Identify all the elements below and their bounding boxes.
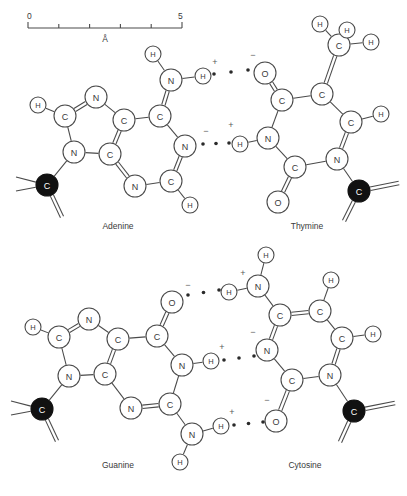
atom-label-n: N xyxy=(179,361,186,371)
atom-label-c: C xyxy=(62,112,69,122)
atom-a-c6: C xyxy=(149,105,171,127)
atom-a-h-n6b: H xyxy=(195,68,211,84)
atom-g-n3: N xyxy=(120,397,142,419)
bond-single xyxy=(98,326,108,333)
atom-label-h: H xyxy=(226,288,231,297)
atom-c-n3: N xyxy=(256,339,278,361)
atom-c-c1p: C xyxy=(343,400,365,422)
bond-single xyxy=(158,61,165,71)
atom-label-n: N xyxy=(334,155,341,165)
molecular-diagram-canvas: 05ÅHCNCCNCCNHHNCHN+−AdenineOCCCHHHCHNCCO… xyxy=(0,0,407,496)
sugar-bond-double-b xyxy=(365,401,395,407)
atom-label-h: H xyxy=(317,20,322,29)
charge-symbol: − xyxy=(250,327,255,337)
atom-c-n1: N xyxy=(319,364,341,386)
atom-label-c: C xyxy=(107,150,114,160)
atom-label-c: C xyxy=(115,335,122,345)
sugar-bond-double-a xyxy=(366,405,396,411)
atom-label-n: N xyxy=(168,76,175,86)
bond-double-a xyxy=(270,84,275,92)
bond-single xyxy=(274,359,284,371)
bond-single xyxy=(362,116,373,119)
atom-g-c1p: C xyxy=(31,398,53,420)
atom-g-c6: C xyxy=(146,325,168,347)
bond-single xyxy=(135,117,148,118)
atom-a-n9: N xyxy=(63,141,85,163)
hydrogen-bond-dot xyxy=(261,420,265,424)
atom-label-h: H xyxy=(378,110,383,119)
bond-single xyxy=(129,337,145,338)
atom-label-o: O xyxy=(274,198,281,208)
bond-single xyxy=(41,330,48,333)
atom-label-c: C xyxy=(348,118,355,128)
sugar-bond-single xyxy=(11,411,31,415)
base-name-label: Adenine xyxy=(102,221,133,231)
bond-single xyxy=(248,140,256,142)
atom-c-h-n4b: H xyxy=(258,247,274,263)
atom-c-c6: C xyxy=(331,327,353,349)
atom-a-c4: C xyxy=(99,143,121,165)
atom-label-c: C xyxy=(157,112,164,122)
atom-t-c2: C xyxy=(284,156,306,178)
atom-label-h: H xyxy=(263,251,268,260)
atom-a-n1: N xyxy=(174,135,196,157)
bond-single xyxy=(203,428,213,431)
base-cytosine: NHHCCHCHNCCON+−−Cytosine xyxy=(221,247,395,470)
bond-single xyxy=(173,376,178,393)
atom-label-h: H xyxy=(218,422,223,431)
hydrogen-bond xyxy=(232,420,265,427)
bond-single xyxy=(272,111,278,127)
atom-t-n1: N xyxy=(326,148,348,170)
hydrogen-bond-dot xyxy=(232,423,236,427)
bond-double-b xyxy=(162,91,166,105)
atom-a-c8: C xyxy=(54,105,76,127)
hydrogen-bond-dot xyxy=(252,354,256,358)
base-adenine: HCNCCNCCNHHNCHN+−Adenine xyxy=(16,46,218,231)
atom-label-h: H xyxy=(187,201,192,210)
hydrogen-bond-dot xyxy=(227,141,231,145)
atom-t-c5: C xyxy=(311,83,333,105)
atom-label-h: H xyxy=(177,458,182,467)
bond-single xyxy=(177,413,185,424)
scale-bar-start-label: 0 xyxy=(27,11,32,21)
atom-t-h-n3: H xyxy=(232,136,248,152)
bond-double-b xyxy=(143,407,159,409)
atom-c-h-n4a: H xyxy=(221,284,237,300)
hydrogen-bond-dot xyxy=(212,72,216,76)
atom-label-o: O xyxy=(272,417,279,427)
sugar-bond-double-b xyxy=(370,181,399,187)
charge-symbol: − xyxy=(250,50,255,60)
bond-single xyxy=(326,30,332,36)
atom-t-o4: O xyxy=(254,62,276,84)
bond-double-a xyxy=(76,104,87,111)
hydrogen-bond-dot xyxy=(246,68,250,72)
atom-g-h-c8: H xyxy=(25,319,41,335)
bond-single xyxy=(327,320,334,329)
atom-t-c6: C xyxy=(340,111,362,133)
bond-single xyxy=(46,108,54,111)
charge-symbol: + xyxy=(212,57,217,67)
atom-a-h-c8: H xyxy=(30,97,46,113)
atom-label-c: C xyxy=(292,163,299,173)
atom-label-n: N xyxy=(132,182,139,192)
hydrogen-bond-dot xyxy=(222,358,226,362)
charge-symbol: + xyxy=(229,407,234,417)
atom-label-c: C xyxy=(317,307,324,317)
bond-single xyxy=(303,377,318,379)
hydrogen-bond-dot xyxy=(201,142,205,146)
atom-a-n6: N xyxy=(160,69,182,91)
charge-symbol: − xyxy=(264,395,269,405)
sugar-bond-double-a xyxy=(371,185,400,191)
charge-symbol: − xyxy=(185,280,190,290)
atom-g-h-n2b: H xyxy=(172,454,188,470)
atom-t-h-c6: H xyxy=(373,106,389,122)
bond-single xyxy=(182,77,194,79)
atom-label-c: C xyxy=(351,407,358,417)
atom-g-n7: N xyxy=(78,308,100,330)
atom-label-n: N xyxy=(182,142,189,152)
atom-a-c2: C xyxy=(160,170,182,192)
hydrogen-bond xyxy=(212,68,250,76)
base-name-label: Guanine xyxy=(102,460,134,470)
bond-single xyxy=(167,125,177,137)
atom-label-c: C xyxy=(154,332,161,342)
